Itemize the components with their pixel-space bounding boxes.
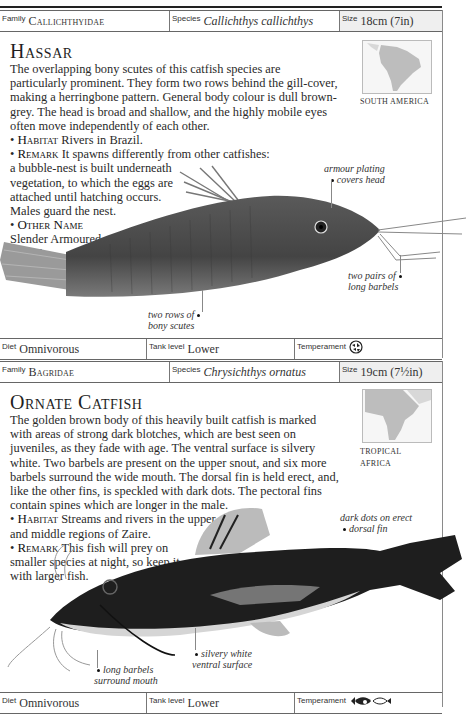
callout-long-barbels: two pairs of long barbels — [348, 270, 405, 292]
predatory-fish-icon — [349, 695, 393, 707]
range-map-south-america — [362, 40, 432, 94]
diet-cell: Diet Omnivorous — [0, 339, 147, 359]
page-top-rule — [0, 6, 442, 8]
tank-level-cell: Tank level Lower — [147, 339, 295, 359]
card-footer-ornate-catfish: Diet Omnivorous Tank level Lower Tempera… — [0, 692, 442, 714]
species-cell: Species Callichthys callichthys — [170, 11, 340, 31]
south-america-map-icon — [363, 41, 431, 93]
callout-bony-scutes: two rows of bony scutes — [148, 309, 203, 331]
tank-level-value: Lower — [188, 342, 219, 357]
card-header-ornate-catfish: Family Bagridae Species Chrysichthys orn… — [0, 361, 442, 383]
size-cell: Size 18cm (7in) — [340, 11, 442, 31]
temperament-cell: Temperament — [295, 339, 442, 359]
size-label: Size — [342, 14, 358, 23]
peaceful-community-fish-icon — [349, 340, 363, 354]
tank-level-cell: Tank level Lower — [147, 693, 295, 713]
callout-leader — [195, 628, 196, 650]
species-title: Ornate Catfish — [10, 391, 142, 414]
description-text: The golden brown body of this heavily bu… — [10, 413, 340, 512]
card-footer-hassar: Diet Omnivorous Tank level Lower Tempera… — [0, 338, 442, 360]
tank-level-value: Lower — [188, 696, 219, 711]
species-value: Chrysichthys ornatus — [203, 365, 305, 380]
species-label: Species — [172, 365, 200, 374]
map-label: SOUTH AMERICA — [360, 96, 429, 108]
temperament-label: Temperament — [297, 342, 346, 351]
callout-armour-plating: armour plating covers head — [324, 163, 385, 185]
family-cell: Family Bagridae — [0, 362, 170, 382]
diet-value: Omnivorous — [19, 696, 79, 711]
map-label: TROPICAL AFRICA — [360, 446, 402, 470]
size-value: 18cm (7in) — [361, 14, 414, 29]
diet-label: Diet — [2, 342, 16, 351]
description-text: The overlapping bony scutes of this catf… — [10, 62, 340, 133]
diet-value: Omnivorous — [19, 342, 79, 357]
habitat-text: Rivers in Brazil. — [61, 133, 143, 147]
callout-dorsal-fin: dark dots on erect dorsal fin — [340, 512, 412, 534]
species-label: Species — [172, 14, 200, 23]
species-title: Hassar — [10, 40, 73, 63]
size-cell: Size 19cm (7½in) — [340, 362, 442, 382]
callout-long-barbels: long barbels surround mouth — [94, 664, 158, 686]
size-value: 19cm (7½in) — [361, 365, 423, 380]
family-label: Family — [2, 14, 26, 23]
family-value: Callichthyidae — [29, 14, 105, 29]
callout-dot — [343, 528, 346, 531]
callout-dot — [399, 275, 402, 278]
africa-map-icon — [363, 390, 431, 442]
species-cell: Species Chrysichthys ornatus — [170, 362, 340, 382]
size-label: Size — [342, 365, 358, 374]
habitat-line: • Habitat Rivers in Brazil. — [10, 133, 340, 147]
diet-cell: Diet Omnivorous — [0, 693, 147, 713]
callout-leader — [400, 255, 401, 273]
callout-leader — [331, 180, 332, 208]
family-value: Bagridae — [29, 365, 75, 380]
habitat-label: Habitat — [17, 132, 58, 147]
callout-ventral-surface: silvery white ventral surface — [192, 648, 252, 670]
range-map-tropical-africa — [362, 389, 432, 443]
diet-label: Diet — [2, 696, 16, 705]
tank-level-label: Tank level — [149, 342, 185, 351]
species-value: Callichthys callichthys — [203, 14, 313, 29]
callout-leader — [202, 290, 203, 312]
tank-level-label: Tank level — [149, 696, 185, 705]
callout-dot — [195, 653, 198, 656]
card-header-hassar: Family Callichthyidae Species Callichthy… — [0, 10, 442, 32]
callout-dot — [197, 314, 200, 317]
temperament-cell: Temperament — [295, 693, 442, 713]
family-label: Family — [2, 365, 26, 374]
remark-label: Remark — [17, 146, 58, 161]
temperament-label: Temperament — [297, 696, 346, 705]
callout-leader — [97, 650, 98, 668]
callout-dot — [97, 669, 100, 672]
family-cell: Family Callichthyidae — [0, 11, 170, 31]
